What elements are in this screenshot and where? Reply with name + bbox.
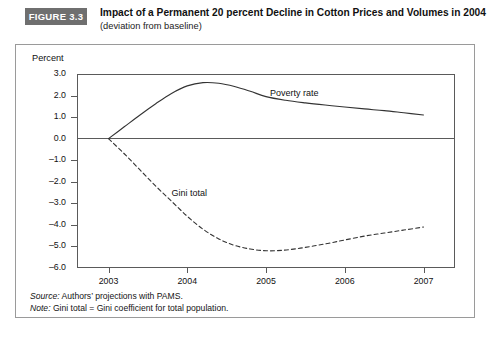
y-axis-tick-label: –6.0 (22, 263, 66, 272)
series-line-poverty-rate (109, 82, 424, 138)
series-label-poverty-rate: Poverty rate (270, 88, 319, 98)
y-axis-tick-label: 0.0 (22, 134, 66, 143)
note-label: Note: (30, 303, 51, 313)
figure-title-group: Impact of a Permanent 20 percent Decline… (100, 7, 486, 32)
source-line: Source: Authors’ projections with PAMS. (30, 290, 228, 302)
source-text: Authors’ projections with PAMS. (60, 291, 183, 301)
x-axis-tick (109, 268, 110, 273)
figure-number-badge: FIGURE 3.3 (25, 8, 87, 25)
y-axis-tick-label: 3.0 (22, 69, 66, 78)
x-axis-tick-label: 2005 (243, 276, 289, 286)
y-axis-tick-label: 1.0 (22, 112, 66, 121)
y-axis-title: Percent (32, 53, 64, 63)
y-axis-tick-label: 2.0 (22, 91, 66, 100)
x-axis-tick (187, 268, 188, 273)
y-axis-tick-label: –1.0 (22, 155, 66, 164)
x-axis-tick-label: 2006 (322, 276, 368, 286)
figure-title: Impact of a Permanent 20 percent Decline… (100, 7, 486, 19)
y-axis-tick-label: –2.0 (22, 177, 66, 186)
series-line-gini-total (109, 139, 424, 251)
x-axis-tick-label: 2004 (164, 276, 210, 286)
x-axis-tick-label: 2007 (401, 276, 447, 286)
x-axis-tick (266, 268, 267, 273)
figure-subtitle: (deviation from baseline) (100, 21, 486, 32)
note-text: Gini total = Gini coefficient for total … (51, 303, 229, 313)
chart-series-layer (77, 74, 455, 268)
y-axis-tick-label: –3.0 (22, 198, 66, 207)
figure-header: FIGURE 3.3 Impact of a Permanent 20 perc… (25, 7, 475, 39)
x-axis-tick (345, 268, 346, 273)
note-line: Note: Gini total = Gini coefficient for … (30, 302, 228, 314)
x-axis-tick-label: 2003 (86, 276, 132, 286)
y-axis-tick-label: –5.0 (22, 241, 66, 250)
source-label: Source: (30, 291, 60, 301)
series-label-gini-total: Gini total (172, 188, 208, 198)
figure-root: FIGURE 3.3 Impact of a Permanent 20 perc… (0, 0, 500, 337)
x-axis-tick (424, 268, 425, 273)
figure-footnotes: Source: Authors’ projections with PAMS. … (30, 290, 228, 315)
y-axis-tick-label: –4.0 (22, 220, 66, 229)
